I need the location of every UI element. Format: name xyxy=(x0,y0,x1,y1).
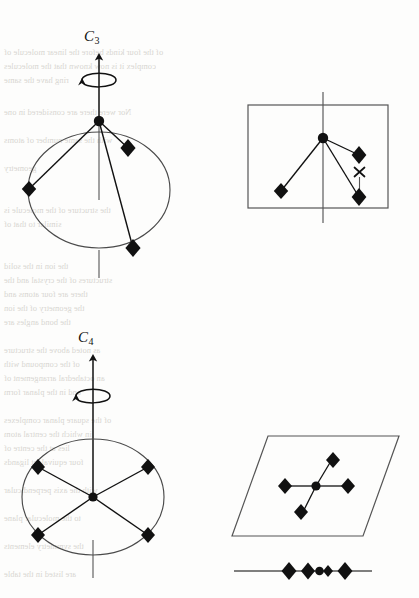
figure-root: of the four kinds before the linear mole… xyxy=(0,0,419,598)
c4-central-atom xyxy=(88,492,97,501)
c4-edge-diamond-inner-right xyxy=(323,565,333,577)
c4-bond-lower-left xyxy=(38,497,93,535)
c4-ligand-diamond-upper-right xyxy=(141,459,155,475)
c4-edge-diamond-far-right xyxy=(338,562,353,580)
c4-edge-diamond-inner-left xyxy=(301,563,315,580)
c4-plane-diamond-right xyxy=(341,478,355,494)
c4-bond-lower-right xyxy=(93,497,148,535)
symmetry-figure-svg xyxy=(0,0,419,598)
c4-bond-upper-left xyxy=(38,467,93,497)
c3-projection-central-atom xyxy=(318,133,328,143)
c3-projection-diamond-right xyxy=(352,146,367,164)
c4-edge-diamond-far-left xyxy=(282,562,297,580)
panel-c3-projection-box xyxy=(248,92,388,223)
panel-c4-projection-parallelogram xyxy=(232,436,399,536)
c3-projection-x-mark xyxy=(355,168,365,177)
c4-edge-central-atom xyxy=(315,567,324,576)
c3-central-atom xyxy=(94,116,104,126)
c3-projection-bond-left xyxy=(281,138,323,191)
c4-ligand-diamond-upper-left xyxy=(31,459,45,475)
c3-bond-to-left-ligand xyxy=(29,121,99,189)
panel-c4-axis-perspective xyxy=(22,358,164,578)
c3-bond-to-upper-right-ligand xyxy=(99,121,128,148)
panel-c4-edge-on-view xyxy=(234,562,372,580)
c4-ligand-diamond-lower-left xyxy=(31,527,45,543)
c3-ligand-diamond-lower-right xyxy=(125,239,140,257)
c4-bond-upper-right xyxy=(93,467,148,497)
c3-projection-diamond-lower-right xyxy=(352,188,367,206)
c3-projection-box-outline xyxy=(248,105,388,208)
c4-plane-central-atom xyxy=(311,481,320,490)
c4-ligand-diamond-lower-right xyxy=(141,527,155,543)
c4-plane-diamond-left xyxy=(278,478,292,494)
c3-ligand-diamond-upper-right xyxy=(120,139,135,157)
panel-c3-axis-perspective xyxy=(22,57,170,278)
